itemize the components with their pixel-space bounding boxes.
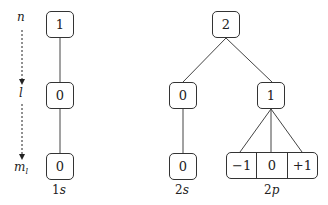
node-2-n: 2 xyxy=(212,11,240,38)
axis-label-ml: ml xyxy=(14,160,28,176)
axis-label-l: l xyxy=(19,86,23,100)
label-2s: 2s xyxy=(175,183,189,197)
node-1s-l: 0 xyxy=(46,82,74,109)
label-1s: 1s xyxy=(52,183,66,197)
node-2p-l: 1 xyxy=(257,82,285,109)
ml-cell: +1 xyxy=(287,153,317,178)
ml-cell: 0 xyxy=(256,153,286,178)
label-2p: 2p xyxy=(264,183,279,197)
node-2s-ml: 0 xyxy=(169,153,197,180)
node-1s-ml: 0 xyxy=(46,153,74,180)
node-2p-ml: −1 0 +1 xyxy=(226,152,318,179)
axis-label-n: n xyxy=(17,10,25,24)
ml-cell: −1 xyxy=(227,153,256,178)
node-2s-l: 0 xyxy=(169,82,197,109)
node-1s-n: 1 xyxy=(46,11,74,38)
